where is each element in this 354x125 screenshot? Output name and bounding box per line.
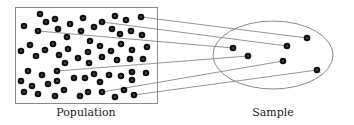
sampling-diagram — [0, 0, 354, 125]
connector-line — [134, 70, 317, 95]
population-label: Population — [56, 106, 115, 119]
sample-ellipse — [213, 21, 333, 89]
sample-label: Sample — [252, 106, 294, 119]
connector-line — [57, 56, 248, 71]
